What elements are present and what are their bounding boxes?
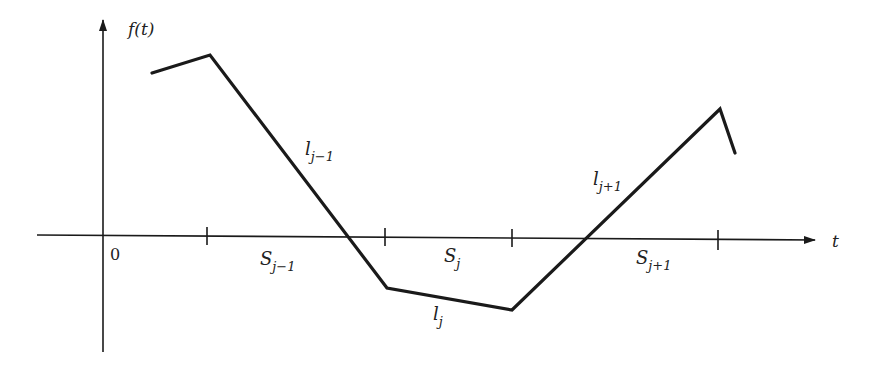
origin-label: 0 <box>110 245 120 264</box>
x-axis-label: t <box>832 231 839 251</box>
segment-label-s-j: Sj <box>444 245 460 271</box>
line-label-l-j: lj <box>433 303 443 329</box>
line-label-l-j-minus-1: lj−1 <box>305 138 334 164</box>
x-axis <box>37 235 815 240</box>
y-axis-label: f(t) <box>126 19 154 39</box>
segment-label-s-j-minus-1: Sj−1 <box>260 248 296 274</box>
line-label-l-j-plus-1: lj+1 <box>593 168 622 194</box>
segment-label-s-j-plus-1: Sj+1 <box>636 247 672 273</box>
piecewise-linear-diagram: f(t) t 0 Sj−1 Sj Sj+1 lj−1 lj lj+1 <box>0 0 870 375</box>
